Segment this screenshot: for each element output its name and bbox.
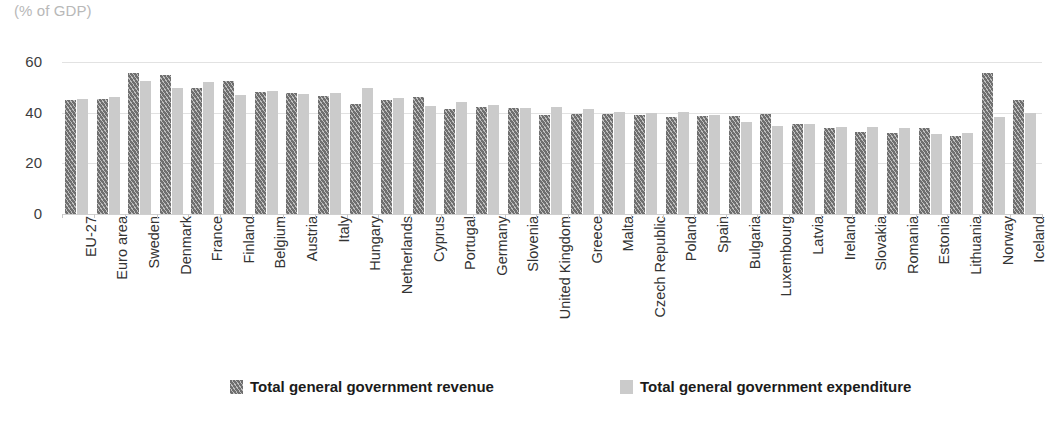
x-axis-tick-mark: [347, 214, 348, 218]
bar-revenue[interactable]: [539, 115, 550, 214]
bar-revenue[interactable]: [697, 116, 708, 214]
bar-revenue[interactable]: [160, 75, 171, 214]
bar-revenue[interactable]: [444, 109, 455, 214]
bar-expenditure[interactable]: [425, 106, 436, 214]
bar-revenue[interactable]: [729, 116, 740, 214]
legend-item-expenditure[interactable]: Total general government expenditure: [620, 378, 911, 395]
bar-expenditure[interactable]: [267, 91, 278, 214]
x-axis-tick-mark: [1010, 214, 1011, 218]
x-axis-tick-mark: [188, 214, 189, 218]
bar-group: [188, 62, 220, 214]
x-axis-tick-mark: [599, 214, 600, 218]
bar-revenue[interactable]: [666, 117, 677, 214]
x-axis-tick-mark: [410, 214, 411, 218]
plot-area: 0204060: [62, 62, 1042, 214]
x-axis-category-label: France: [210, 216, 225, 366]
x-axis-category-label: Netherlands: [400, 216, 415, 366]
x-axis-category-label: Sweden: [147, 216, 162, 366]
bar-group: [125, 62, 157, 214]
bar-expenditure[interactable]: [994, 117, 1005, 214]
bar-expenditure[interactable]: [456, 102, 467, 214]
bar-revenue[interactable]: [255, 92, 266, 214]
bar-expenditure[interactable]: [298, 94, 309, 214]
bar-expenditure[interactable]: [393, 98, 404, 214]
bar-revenue[interactable]: [855, 132, 866, 214]
x-axis-tick-mark: [694, 214, 695, 218]
bar-expenditure[interactable]: [646, 113, 657, 214]
bar-group: [505, 62, 537, 214]
chart-legend: Total general government revenue Total g…: [0, 378, 1054, 404]
bar-expenditure[interactable]: [330, 93, 341, 214]
bar-revenue[interactable]: [350, 104, 361, 214]
x-axis-category-label: Lithuania: [969, 216, 984, 366]
bar-expenditure[interactable]: [709, 115, 720, 214]
bar-expenditure[interactable]: [203, 82, 214, 214]
bar-expenditure[interactable]: [77, 99, 88, 214]
x-axis-category-label: Norway: [1001, 216, 1016, 366]
bar-revenue[interactable]: [381, 100, 392, 215]
bar-revenue[interactable]: [128, 73, 139, 214]
bar-revenue[interactable]: [571, 114, 582, 214]
x-axis-category-label: Portugal: [463, 216, 478, 366]
legend-swatch-revenue: [230, 380, 243, 394]
bar-expenditure[interactable]: [772, 126, 783, 214]
x-axis-tick-mark: [378, 214, 379, 218]
bar-revenue[interactable]: [413, 97, 424, 214]
bar-expenditure[interactable]: [551, 107, 562, 214]
bar-expenditure[interactable]: [614, 112, 625, 214]
x-axis-tick-mark: [94, 214, 95, 218]
bar-expenditure[interactable]: [109, 97, 120, 214]
x-axis-tick-mark: [315, 214, 316, 218]
bar-group: [536, 62, 568, 214]
x-axis-tick-mark: [947, 214, 948, 218]
bar-expenditure[interactable]: [140, 81, 151, 215]
bar-expenditure[interactable]: [931, 134, 942, 214]
bar-expenditure[interactable]: [899, 128, 910, 214]
bar-expenditure[interactable]: [235, 95, 246, 214]
bar-revenue[interactable]: [1013, 100, 1024, 214]
bar-revenue[interactable]: [602, 114, 613, 214]
bar-expenditure[interactable]: [362, 88, 373, 214]
bar-group: [757, 62, 789, 214]
bar-revenue[interactable]: [318, 96, 329, 214]
bar-expenditure[interactable]: [741, 122, 752, 214]
bar-revenue[interactable]: [950, 136, 961, 214]
x-axis-category-label: Euro area: [115, 216, 130, 366]
x-axis-tick-mark: [125, 214, 126, 218]
bar-expenditure[interactable]: [962, 133, 973, 214]
bar-revenue[interactable]: [476, 107, 487, 214]
bar-revenue[interactable]: [887, 133, 898, 214]
x-axis-labels: EU-27Euro areaSwedenDenmarkFranceFinland…: [62, 216, 1042, 366]
bar-expenditure[interactable]: [804, 124, 815, 214]
x-axis-tick-mark: [220, 214, 221, 218]
legend-item-revenue[interactable]: Total general government revenue: [230, 378, 494, 395]
bar-revenue[interactable]: [65, 100, 76, 214]
x-axis-tick-mark: [757, 214, 758, 218]
bar-revenue[interactable]: [760, 114, 771, 214]
bar-expenditure[interactable]: [583, 109, 594, 214]
bar-revenue[interactable]: [286, 93, 297, 214]
bar-revenue[interactable]: [508, 108, 519, 214]
bar-revenue[interactable]: [792, 124, 803, 214]
x-axis-category-label: Slovenia: [526, 216, 541, 366]
bar-expenditure[interactable]: [520, 108, 531, 214]
bar-revenue[interactable]: [634, 115, 645, 214]
x-axis-category-label: Ireland: [843, 216, 858, 366]
bar-expenditure[interactable]: [488, 105, 499, 214]
bar-revenue[interactable]: [223, 81, 234, 214]
bar-revenue[interactable]: [191, 88, 202, 214]
x-axis-tick-mark: [631, 214, 632, 218]
bar-expenditure[interactable]: [867, 127, 878, 214]
bar-revenue[interactable]: [982, 73, 993, 214]
bar-revenue[interactable]: [919, 128, 930, 214]
bar-revenue[interactable]: [824, 128, 835, 214]
bar-group: [473, 62, 505, 214]
bar-revenue[interactable]: [97, 99, 108, 214]
bar-expenditure[interactable]: [678, 112, 689, 214]
bar-expenditure[interactable]: [172, 88, 183, 214]
x-axis-category-label: Austria: [305, 216, 320, 366]
bar-group: [410, 62, 442, 214]
x-axis-tick-mark: [568, 214, 569, 218]
bar-expenditure[interactable]: [836, 127, 847, 214]
bar-expenditure[interactable]: [1025, 113, 1036, 214]
